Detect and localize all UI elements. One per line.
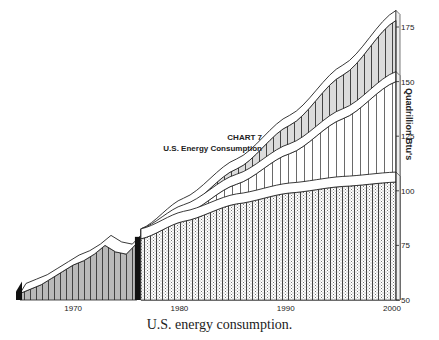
projection-divider: [135, 237, 141, 300]
y-axis-title: Quadrillion Btu's: [404, 88, 414, 160]
x-tick-label: 1990: [277, 304, 295, 313]
projection-end-face-low: [396, 172, 400, 300]
historical-end-cap: [16, 281, 22, 300]
y-tick-label: 75: [401, 241, 410, 250]
chart-subtitle: U.S. Energy Consumption: [90, 143, 262, 154]
y-tick-label: 175: [401, 23, 415, 32]
chart-title: CHART 7 U.S. Energy Consumption: [90, 132, 262, 154]
y-tick-label: 100: [401, 187, 415, 196]
x-tick-label: 1980: [171, 304, 189, 313]
figure-caption: U.S. energy consumption.: [0, 317, 439, 333]
x-tick-label: 1970: [64, 304, 82, 313]
chart-number: CHART 7: [90, 132, 262, 143]
y-tick-label: 150: [401, 78, 415, 87]
energy-consumption-chart: 50751001251501751970198019902000: [0, 0, 439, 340]
plot-area: 50751001251501751970198019902000: [16, 10, 415, 313]
y-tick-label: 50: [401, 296, 410, 305]
projection-area-low: [141, 182, 396, 300]
x-tick-label: 2000: [383, 304, 401, 313]
